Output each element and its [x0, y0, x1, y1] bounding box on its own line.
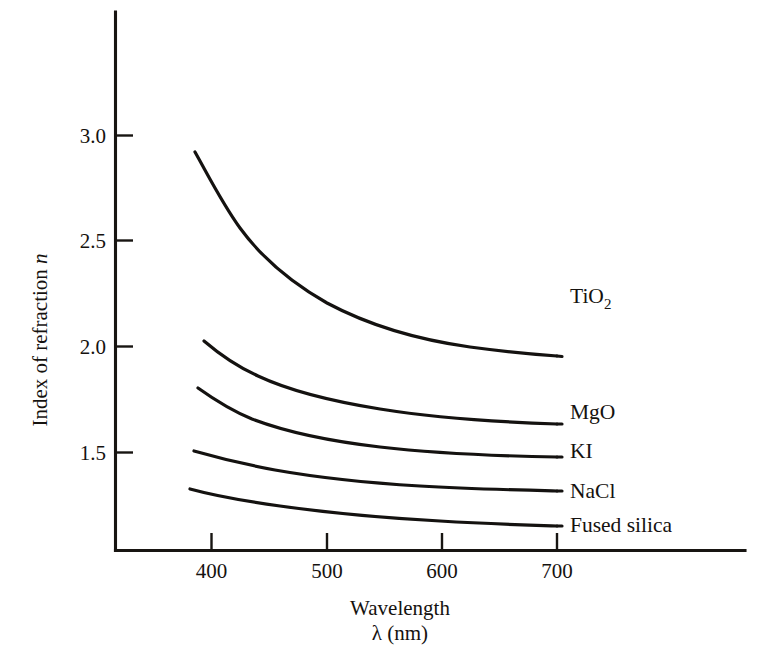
svg-text:Index of refraction n: Index of refraction n	[28, 253, 52, 426]
curve-mgo	[204, 341, 557, 424]
x-axis-tick-labels: 400 500 600 700	[196, 559, 573, 583]
x-tick-label-500: 500	[311, 559, 343, 583]
y-axis-title-symbol: n	[28, 253, 52, 264]
curve-label-tio2-sub: 2	[604, 296, 612, 312]
curve-tio2	[195, 152, 557, 356]
y-tick-label-2.5: 2.5	[80, 229, 106, 253]
curve-fused-silica	[190, 489, 557, 526]
curve-label-ki: KI	[570, 439, 593, 463]
x-tick-label-700: 700	[541, 559, 573, 583]
axis-lines	[116, 12, 746, 551]
figure-container: 3.0 2.5 2.0 1.5 400 500 600 700 Waveleng…	[0, 0, 768, 655]
leader-tio2	[557, 356, 562, 357]
y-axis-tick-labels: 3.0 2.5 2.0 1.5	[80, 124, 106, 465]
curve-label-nacl: NaCl	[570, 479, 615, 503]
y-tick-label-2.0: 2.0	[80, 335, 106, 359]
x-axis-title-line1: Wavelength	[350, 596, 450, 620]
y-axis-ticks	[115, 136, 133, 453]
x-axis-title: Wavelength λ (nm)	[350, 596, 450, 645]
y-tick-label-1.5: 1.5	[80, 441, 106, 465]
x-axis-title-line2: λ (nm)	[372, 621, 428, 645]
data-curves	[190, 152, 557, 526]
curve-label-tio2: TiO2	[570, 284, 611, 312]
x-axis-ticks	[212, 533, 558, 550]
label-leader-lines	[557, 356, 562, 526]
y-axis-title: Index of refraction n	[28, 253, 52, 426]
y-axis-title-main: Index of refraction	[28, 264, 52, 427]
x-tick-label-400: 400	[196, 559, 228, 583]
refractive-index-chart: 3.0 2.5 2.0 1.5 400 500 600 700 Waveleng…	[0, 0, 768, 655]
y-tick-label-3.0: 3.0	[80, 124, 106, 148]
curve-label-tio2-base: TiO	[570, 284, 604, 308]
curve-label-mgo: MgO	[570, 400, 615, 424]
curve-label-fused-silica: Fused silica	[570, 513, 673, 537]
x-tick-label-600: 600	[426, 559, 458, 583]
curve-labels: TiO2 MgO KI NaCl Fused silica	[570, 284, 673, 537]
